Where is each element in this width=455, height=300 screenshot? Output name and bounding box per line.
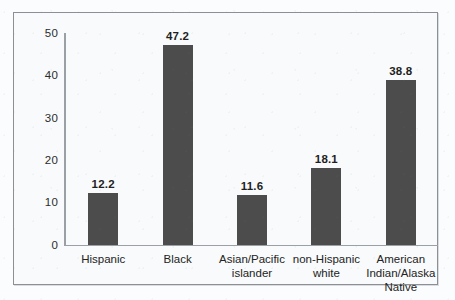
bar-group: 11.6Asian/Pacific islander: [215, 13, 289, 245]
y-tick-label: 20: [45, 154, 58, 166]
bar-group: 12.2Hispanic: [66, 13, 140, 245]
bar: [163, 45, 193, 245]
bar-group: 18.1non-Hispanic white: [289, 13, 363, 245]
bar-value-label: 18.1: [315, 153, 338, 165]
y-tick-label: 0: [51, 239, 58, 251]
bar: [88, 193, 118, 245]
bar-group: 38.8American Indian/Alaska Native: [364, 13, 438, 245]
bar: [386, 80, 416, 244]
category-label: American Indian/Alaska Native: [353, 252, 449, 294]
bar-group: 47.2Black: [140, 13, 214, 245]
bar-value-label: 38.8: [389, 65, 412, 77]
y-tick-label: 10: [45, 196, 58, 208]
bar: [311, 168, 341, 245]
bar: [237, 195, 267, 244]
y-tick-label: 40: [45, 69, 58, 81]
x-axis-line: [64, 245, 438, 247]
bar-chart-figure: 01020304050 12.2Hispanic47.2Black11.6Asi…: [0, 0, 455, 300]
y-tick-label: 30: [45, 112, 58, 124]
y-tick-label: 50: [45, 27, 58, 39]
bar-value-label: 11.6: [241, 180, 264, 192]
bar-value-label: 12.2: [92, 178, 115, 190]
bar-value-label: 47.2: [166, 30, 189, 42]
chart-border-frame: 01020304050 12.2Hispanic47.2Black11.6Asi…: [13, 12, 438, 285]
